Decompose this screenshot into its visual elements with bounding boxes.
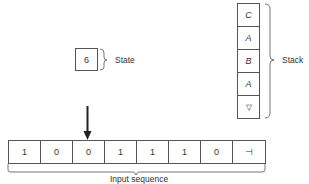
stack-bottom-cell: ▽ — [237, 95, 260, 119]
input-cell: 0 — [40, 140, 73, 164]
input-cell-value: 1 — [182, 147, 187, 157]
head-arrow-tip — [84, 131, 92, 140]
input-label: Input sequence — [110, 174, 168, 184]
stack-label: Stack — [282, 55, 303, 65]
state-value: 6 — [84, 55, 89, 65]
stack-cell-value: A — [245, 33, 251, 43]
input-cell: 1 — [104, 140, 137, 164]
state-label: State — [115, 55, 135, 65]
input-cell-current: 0 — [72, 140, 105, 164]
stack-cell: A — [237, 72, 260, 96]
state-box: 6 — [75, 48, 98, 71]
input-tape: 1 0 0 1 1 1 0 ⊣ — [8, 140, 266, 164]
input-cell-value: 0 — [54, 147, 59, 157]
input-end-cell: ⊣ — [232, 140, 266, 164]
stack-cell: A — [237, 26, 260, 50]
stack-brace — [265, 4, 274, 118]
stack-cell: C — [237, 3, 260, 27]
input-cell-value: 0 — [214, 147, 219, 157]
input-cell: 1 — [8, 140, 41, 164]
end-marker-icon: ⊣ — [245, 147, 253, 157]
stack-cell: B — [237, 49, 260, 73]
state-brace — [100, 49, 107, 70]
input-cell: 1 — [136, 140, 169, 164]
stack-cell-value: B — [245, 56, 251, 66]
stack-cell-value: A — [245, 79, 251, 89]
input-cell-value: 1 — [150, 147, 155, 157]
input-cell: 0 — [200, 140, 233, 164]
input-cell-value: 1 — [22, 147, 27, 157]
input-cell-value: 0 — [86, 147, 91, 157]
stack-cell-value: C — [245, 10, 252, 20]
stack-bottom-marker-icon: ▽ — [246, 103, 252, 112]
input-cell-value: 1 — [118, 147, 123, 157]
stack: C A B A ▽ — [237, 3, 260, 119]
input-cell: 1 — [168, 140, 201, 164]
